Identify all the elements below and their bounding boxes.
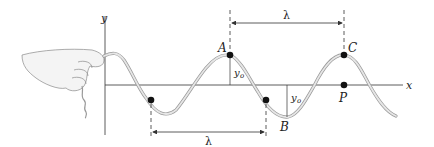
point-c	[341, 52, 348, 59]
wavelength-label-top: λ	[283, 9, 290, 22]
label-a: A	[217, 41, 227, 55]
label-p: P	[338, 91, 348, 105]
amplitude-label-b: y	[290, 92, 297, 103]
point-p	[341, 82, 348, 89]
label-c: C	[348, 41, 357, 55]
amplitude-sub-a: o	[240, 72, 244, 80]
amplitude-label-a: y	[233, 67, 240, 78]
point-left	[148, 97, 155, 104]
point-a	[227, 52, 234, 59]
y-axis-label: y	[100, 12, 108, 25]
wavelength-label-bottom: λ	[205, 135, 212, 147]
label-b: B	[279, 120, 289, 134]
amplitude-sub-b: o	[297, 97, 301, 105]
point-right	[263, 97, 270, 104]
wave-diagram: y x λ λ y o y o A B C P	[0, 0, 434, 147]
hand-illustration	[22, 49, 104, 118]
x-axis-label: x	[406, 79, 413, 92]
